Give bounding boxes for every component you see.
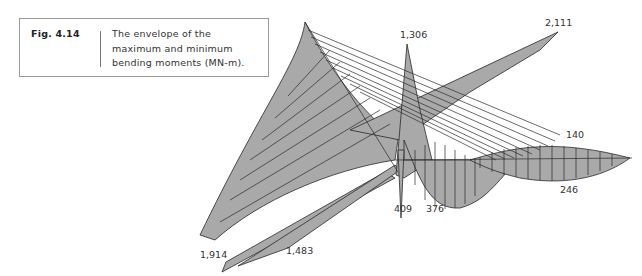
label-1914: 1,914 <box>200 249 227 260</box>
label-1483: 1,483 <box>286 245 313 256</box>
label-peak-2111: 2,111 <box>545 17 572 28</box>
label-376: 376 <box>426 203 444 214</box>
label-140: 140 <box>566 129 584 140</box>
bending-moment-diagram: 1,306 2,111 140 246 409 376 1,914 1,483 <box>0 0 642 276</box>
label-246: 246 <box>560 184 578 195</box>
label-409: 409 <box>394 203 412 214</box>
label-peak-1306: 1,306 <box>400 29 427 40</box>
